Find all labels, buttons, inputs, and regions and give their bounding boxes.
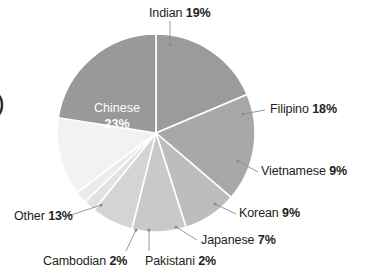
slice-label-cambodian: Cambodian 2% [43, 255, 127, 268]
slice-label-japanese: Japanese 7% [201, 234, 276, 247]
slice-label-cambodian-value: 2% [109, 254, 127, 268]
slice-label-cambodian-name: Cambodian [43, 254, 106, 268]
leader-line-japanese [176, 227, 197, 240]
slice-label-filipino: Filipino 18% [270, 103, 337, 116]
slice-label-indian: Indian 19% [149, 7, 211, 20]
leader-line-cambodian [126, 230, 136, 251]
slice-label-pakistani-name: Pakistani [145, 254, 195, 268]
slice-label-other: Other 13% [14, 210, 73, 223]
slice-label-vietnamese: Vietnamese 9% [261, 165, 347, 178]
slice-label-other-name: Other [14, 209, 45, 223]
slice-label-korean-value: 9% [282, 206, 300, 220]
pie-slices [57, 34, 255, 232]
slice-label-filipino-name: Filipino [270, 102, 309, 116]
pie-chart: ) Indian 19% Filipino 18% Vietnamese 9% … [0, 0, 370, 278]
slice-label-chinese-name: Chinese [80, 101, 154, 117]
slice-label-japanese-name: Japanese [201, 233, 254, 247]
slice-label-korean-name: Korean [239, 206, 279, 220]
slice-label-indian-name: Indian [149, 6, 182, 20]
slice-label-korean: Korean 9% [239, 207, 300, 220]
slice-label-chinese: Chinese 23% [80, 101, 154, 132]
slice-label-chinese-value: 23% [80, 117, 154, 133]
cropped-edge-glyph: ) [0, 90, 5, 116]
slice-label-vietnamese-name: Vietnamese [261, 164, 326, 178]
slice-label-vietnamese-value: 9% [329, 164, 347, 178]
pie-chart-svg [0, 0, 370, 278]
slice-label-japanese-value: 7% [258, 233, 276, 247]
slice-label-indian-value: 19% [186, 6, 211, 20]
slice-label-other-value: 13% [48, 209, 73, 223]
slice-label-pakistani-value: 2% [198, 254, 216, 268]
slice-label-filipino-value: 18% [312, 102, 337, 116]
slice-label-pakistani: Pakistani 2% [145, 255, 216, 268]
